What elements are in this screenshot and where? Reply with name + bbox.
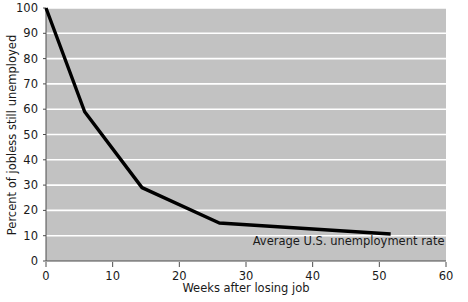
chart-canvas: 0102030405060708090100 0102030405060 Per… — [0, 0, 468, 302]
y-tick-label: 70 — [23, 77, 38, 91]
y-tick-label: 50 — [23, 128, 38, 142]
y-tick-label: 30 — [23, 178, 38, 192]
y-tick-label: 20 — [23, 203, 38, 217]
unemployment-duration-chart: 0102030405060708090100 0102030405060 Per… — [0, 0, 468, 302]
x-tick-label: 10 — [105, 269, 120, 283]
average-unemployment-rate-annotation: Average U.S. unemployment rate — [253, 234, 445, 248]
y-axis — [43, 8, 46, 261]
y-tick-label: 90 — [23, 26, 38, 40]
y-tick-label: 100 — [16, 1, 38, 15]
y-axis-tick-labels: 0102030405060708090100 — [16, 1, 38, 268]
y-tick-label: 80 — [23, 52, 38, 66]
y-tick-label: 10 — [23, 229, 38, 243]
x-axis-title: Weeks after losing job — [182, 281, 309, 295]
y-tick-label: 40 — [23, 153, 38, 167]
x-axis — [46, 261, 446, 267]
y-tick-label: 60 — [23, 102, 38, 116]
x-tick-label: 0 — [42, 269, 49, 283]
y-axis-title: Percent of jobless still unemployed — [5, 35, 19, 235]
x-tick-label: 60 — [439, 269, 454, 283]
x-tick-label: 50 — [372, 269, 387, 283]
y-tick-label: 0 — [31, 254, 38, 268]
